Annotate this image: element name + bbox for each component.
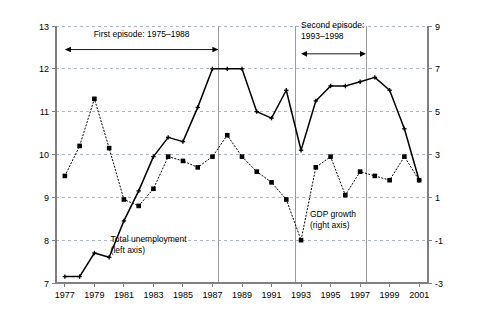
left-tick-label: 11 — [40, 107, 49, 117]
data-point-marker — [240, 154, 245, 159]
x-tick-label: 1993 — [291, 290, 311, 300]
data-point-marker — [195, 165, 200, 170]
data-point-marker — [92, 97, 97, 102]
data-point-marker — [299, 238, 304, 243]
x-tick-label: 1989 — [232, 290, 252, 300]
right-tick-label: 5 — [435, 107, 440, 117]
data-point-marker — [63, 174, 68, 179]
annotation-label: First episode: 1975–1988 — [94, 29, 190, 39]
data-point-marker — [181, 159, 186, 164]
left-tick-label: 9 — [44, 193, 49, 203]
data-point-marker — [387, 178, 392, 183]
right-tick-label: 3 — [435, 150, 440, 160]
right-tick-label: 1 — [435, 193, 440, 203]
annotation-label: Second episode: — [301, 20, 364, 30]
x-tick-label: 1977 — [55, 290, 75, 300]
dual-axis-line-chart: 78910111213 -3-113579 197719791981198319… — [0, 0, 485, 319]
data-point-marker — [77, 144, 82, 149]
data-point-marker — [417, 178, 422, 183]
x-tick-label: 1979 — [84, 290, 104, 300]
data-point-marker — [358, 169, 363, 174]
data-point-marker — [314, 165, 319, 170]
series-callout-label: Total unemployment — [111, 234, 188, 244]
data-point-marker — [254, 169, 259, 174]
data-point-marker — [225, 133, 230, 138]
data-point-marker — [136, 204, 141, 209]
x-tick-label: 1997 — [350, 290, 370, 300]
right-tick-label: -3 — [435, 279, 443, 289]
data-point-marker — [284, 197, 289, 202]
x-tick-label: 1983 — [143, 290, 163, 300]
x-tick-label: 1985 — [173, 290, 193, 300]
x-tick-label: 1981 — [114, 290, 134, 300]
right-tick-label: -1 — [435, 236, 443, 246]
x-tick-label: 1995 — [321, 290, 341, 300]
left-tick-label: 10 — [39, 150, 49, 160]
x-tick-label: 2001 — [409, 290, 429, 300]
right-tick-label: 9 — [435, 22, 440, 32]
series-callout-label: GDP growth — [310, 209, 356, 219]
series-callout-label: (right axis) — [310, 220, 350, 230]
data-point-marker — [166, 154, 171, 159]
x-tick-label: 1991 — [262, 290, 282, 300]
chart-container: 78910111213 -3-113579 197719791981198319… — [0, 0, 485, 319]
left-tick-label: 12 — [39, 64, 49, 74]
left-tick-label: 13 — [39, 22, 49, 32]
data-point-marker — [343, 193, 348, 198]
x-tick-label: 1987 — [202, 290, 222, 300]
data-point-marker — [151, 186, 156, 191]
data-point-marker — [402, 154, 407, 159]
data-point-marker — [269, 180, 274, 185]
x-tick-label: 1999 — [380, 290, 400, 300]
left-tick-label: 8 — [44, 236, 49, 246]
left-tick-label: 7 — [44, 279, 49, 289]
data-point-marker — [210, 154, 215, 159]
right-tick-label: 7 — [435, 64, 440, 74]
data-point-marker — [328, 154, 333, 159]
data-point-marker — [373, 174, 378, 179]
data-point-marker — [107, 146, 112, 151]
annotation-label: 1993–1998 — [301, 31, 344, 41]
data-point-marker — [122, 197, 127, 202]
series-callout-label: (left axis) — [111, 245, 146, 255]
